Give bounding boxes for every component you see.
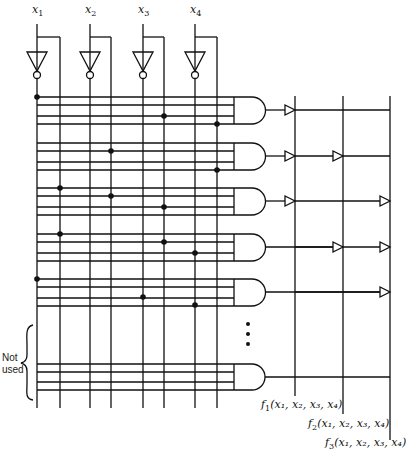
output-label-f3: f3(x₁, x₂, x₃, x₄) <box>325 436 406 451</box>
and-gate-icon <box>234 97 266 124</box>
not-used-label: Not used <box>2 352 26 376</box>
input-label-x1: x1 <box>32 3 43 18</box>
output-label-f2: f2(x₁, x₂, x₃, x₄) <box>308 417 389 432</box>
or-plane <box>285 96 390 440</box>
output-label-f1: f1(x₁, x₂, x₃, x₄) <box>261 398 342 413</box>
input-label-x4: x4 <box>190 3 201 18</box>
input-label-x3: x3 <box>138 3 149 18</box>
and-gate-icon <box>234 279 266 306</box>
and-gate-icon <box>234 143 266 170</box>
and-gate-icon <box>234 234 266 261</box>
input-label-x2: x2 <box>85 3 96 18</box>
and-gate-icon <box>234 188 266 215</box>
input-lines <box>27 24 217 408</box>
and-gate-icon <box>234 364 265 390</box>
